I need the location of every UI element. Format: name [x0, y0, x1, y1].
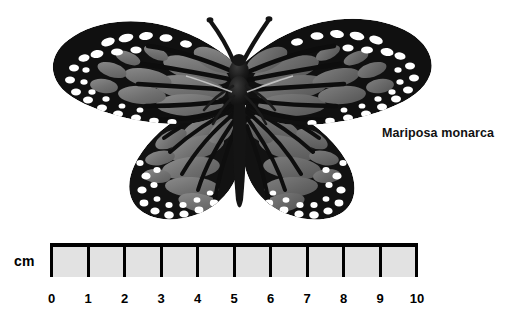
left-forewing [53, 21, 239, 125]
ruler-label-9: 9 [367, 291, 393, 306]
monarch-butterfly-illustration [0, 0, 527, 232]
ruler-label-1: 1 [75, 291, 101, 306]
ruler-tick-2 [123, 243, 126, 277]
ruler-label-2: 2 [112, 291, 138, 306]
ruler-tick-10 [415, 243, 418, 277]
ruler-tick-9 [379, 243, 382, 277]
ruler-tick-6 [269, 243, 272, 277]
ruler-label-4: 4 [185, 291, 211, 306]
ruler-tick-0 [50, 243, 53, 277]
ruler-label-7: 7 [294, 291, 320, 306]
ruler-label-0: 0 [39, 291, 65, 306]
ruler-tick-8 [342, 243, 345, 277]
ruler-tick-5 [233, 243, 236, 277]
ruler-tick-4 [196, 243, 199, 277]
ruler-label-8: 8 [331, 291, 357, 306]
right-forewing [240, 19, 432, 126]
ruler-tick-1 [87, 243, 90, 277]
scale-unit-label: cm [14, 253, 35, 269]
specimen-image-area: Mariposa monarca [0, 0, 527, 232]
ruler-label-5: 5 [221, 291, 247, 306]
species-caption: Mariposa monarca [382, 126, 494, 140]
scale-bar: cm 0 1 2 3 4 5 6 7 8 9 10 [0, 232, 527, 322]
ruler: 0 1 2 3 4 5 6 7 8 9 10 [50, 243, 418, 277]
ruler-tick-7 [306, 243, 309, 277]
ruler-label-6: 6 [258, 291, 284, 306]
butterfly-scale-figure: Mariposa monarca cm 0 1 2 3 4 5 6 7 8 [0, 0, 527, 322]
ruler-label-10: 10 [404, 291, 430, 306]
ruler-tick-3 [160, 243, 163, 277]
ruler-label-3: 3 [148, 291, 174, 306]
